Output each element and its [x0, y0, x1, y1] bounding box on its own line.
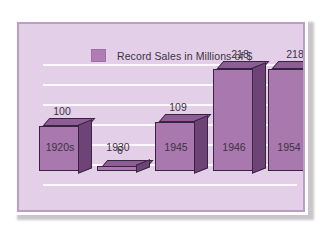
plot-area: Record Sales in Millions of $ 100 1920s — [19, 24, 303, 210]
bar-value-1946: 218 — [217, 48, 263, 60]
bar-value-1954: 218 — [272, 48, 303, 60]
bar-label-1946: 1946 — [211, 141, 257, 153]
bar-front-face — [97, 166, 137, 171]
bar-label-1945: 1945 — [153, 141, 199, 153]
bar-chart-figure: Record Sales in Millions of $ 100 1920s — [0, 0, 323, 246]
bar-1954[interactable] — [268, 61, 303, 171]
bar-label-1954: 1954 — [266, 141, 303, 153]
bar-1946[interactable] — [213, 61, 267, 171]
chart-card: Record Sales in Millions of $ 100 1920s — [14, 19, 308, 215]
bar-front-face — [213, 69, 253, 171]
bars-layer: 100 1920s 6 1930 — [19, 24, 303, 210]
bar-top-face — [272, 61, 303, 69]
bar-side-face — [252, 62, 266, 174]
bar-label-1920s: 1920s — [37, 141, 83, 153]
bar-value-1945: 109 — [155, 101, 201, 113]
bar-value-1920s: 100 — [39, 105, 85, 117]
bar-label-1930: 1930 — [95, 141, 141, 153]
bar-1930[interactable] — [97, 160, 151, 171]
bar-front-face — [268, 69, 303, 171]
